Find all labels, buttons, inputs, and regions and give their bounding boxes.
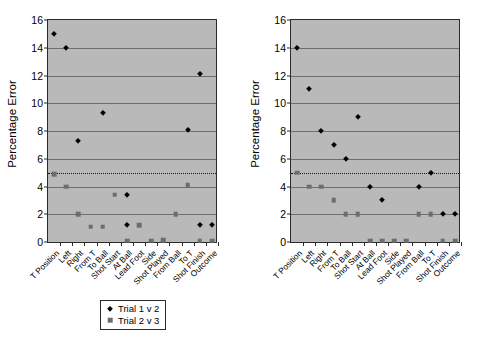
data-point	[124, 222, 130, 228]
legend-item: Trial 2 v 3	[105, 315, 159, 327]
y-axis-tick-mark	[44, 131, 48, 132]
legend-item: Trial 1 v 2	[105, 303, 159, 315]
y-axis-tick-mark	[287, 131, 291, 132]
data-point	[75, 138, 81, 144]
data-point	[185, 183, 190, 188]
data-point	[173, 212, 178, 217]
data-point	[343, 156, 349, 162]
data-point	[88, 224, 93, 229]
gridline	[48, 103, 216, 104]
data-point	[100, 224, 105, 229]
data-point	[380, 238, 385, 243]
gridline	[291, 48, 459, 49]
data-point	[125, 238, 130, 243]
data-point	[379, 197, 385, 203]
data-point	[295, 170, 300, 175]
y-axis-tick-mark	[44, 158, 48, 159]
gridline	[48, 131, 216, 132]
legend-item-label: Trial 2 v 3	[118, 315, 159, 327]
data-point	[440, 211, 446, 217]
gridline	[291, 187, 459, 188]
y-axis-tick-mark	[287, 20, 291, 21]
chart-legend: Trial 1 v 2Trial 2 v 3	[100, 300, 166, 330]
y-axis-tick-mark	[287, 186, 291, 187]
gridline	[48, 159, 216, 160]
data-point	[51, 31, 57, 37]
data-point	[161, 238, 166, 243]
data-point	[428, 170, 434, 176]
y-axis-tick-mark	[287, 47, 291, 48]
data-point	[428, 212, 433, 217]
gridline	[48, 214, 216, 215]
data-point	[63, 45, 69, 51]
data-point	[209, 222, 215, 228]
y-axis-tick-mark	[44, 186, 48, 187]
gridline	[291, 214, 459, 215]
data-point	[76, 212, 81, 217]
plot-area: 1614121086420T PositionLeftRightFrom TTo…	[47, 19, 217, 243]
data-point	[149, 238, 154, 243]
chart-panel-right: Percentage Error1614121086420T PositionL…	[243, 0, 486, 347]
gridline	[291, 159, 459, 160]
data-point	[416, 212, 421, 217]
y-axis-title: Percentage Error	[6, 24, 20, 224]
data-point	[112, 193, 117, 198]
legend-diamond-icon	[105, 303, 115, 314]
data-point	[368, 238, 373, 243]
data-point	[319, 184, 324, 189]
data-point	[452, 211, 458, 217]
data-point	[355, 114, 361, 120]
data-point	[355, 212, 360, 217]
y-axis-tick-mark	[44, 20, 48, 21]
y-axis-tick-mark	[44, 242, 48, 243]
data-point	[440, 238, 445, 243]
data-point	[367, 184, 373, 190]
data-point	[318, 128, 324, 134]
y-axis-tick-mark	[287, 103, 291, 104]
y-axis-tick-mark	[44, 214, 48, 215]
gridline	[291, 103, 459, 104]
gridline	[48, 76, 216, 77]
data-point	[416, 184, 422, 190]
data-point	[124, 192, 130, 198]
data-point	[100, 110, 106, 116]
y-axis-tick-mark	[287, 158, 291, 159]
y-axis-tick-mark	[44, 103, 48, 104]
data-point	[210, 238, 215, 243]
y-axis-tick-mark	[287, 75, 291, 76]
y-axis-tick-mark	[44, 47, 48, 48]
gridline	[48, 187, 216, 188]
data-point	[137, 223, 142, 228]
gridline	[48, 48, 216, 49]
data-point	[343, 212, 348, 217]
data-point	[404, 238, 409, 243]
y-axis-tick-mark	[287, 214, 291, 215]
legend-square-icon	[105, 315, 115, 326]
gridline	[291, 131, 459, 132]
data-point	[392, 238, 397, 243]
y-axis-tick-mark	[287, 242, 291, 243]
chart-panel-left: Percentage Error1614121086420T PositionL…	[0, 0, 243, 347]
reference-line	[48, 173, 216, 174]
plot-area: 1614121086420T PositionLeftRightFrom TTo…	[290, 19, 460, 243]
legend-item-label: Trial 1 v 2	[118, 303, 159, 315]
data-point	[64, 184, 69, 189]
data-point	[52, 172, 57, 177]
data-point	[197, 238, 202, 243]
data-point	[306, 86, 312, 92]
data-point	[331, 142, 337, 148]
scatter-plot-figure: Percentage Error1614121086420T PositionL…	[0, 0, 486, 347]
data-point	[307, 184, 312, 189]
data-point	[453, 238, 458, 243]
data-point	[294, 45, 300, 51]
data-point	[331, 198, 336, 203]
y-axis-tick-mark	[44, 75, 48, 76]
gridline	[291, 76, 459, 77]
y-axis-title: Percentage Error	[249, 24, 263, 224]
